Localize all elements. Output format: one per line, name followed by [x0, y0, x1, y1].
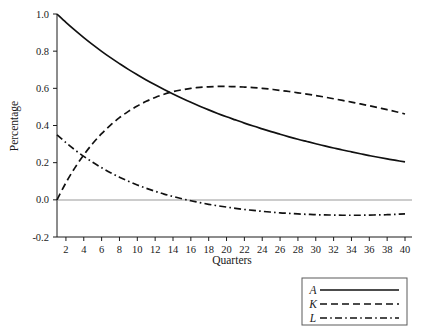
y-tick-label: 0.2 — [36, 157, 49, 168]
x-tick-label: 16 — [186, 244, 197, 255]
x-tick-label: 14 — [168, 244, 179, 255]
legend-label-a: A — [308, 284, 317, 296]
y-tick-label: -0.2 — [32, 232, 49, 243]
y-tick-label: 0.8 — [36, 46, 49, 57]
x-tick-label: 40 — [400, 244, 411, 255]
legend: AKL — [302, 278, 407, 325]
series-group — [57, 14, 405, 215]
y-tick-group: -0.20.00.20.40.60.81.0 — [32, 9, 57, 243]
chart-plot-area: -0.20.00.20.40.60.81.0 24681012141618202… — [0, 0, 429, 333]
y-axis-group: -0.20.00.20.40.60.81.0 — [32, 9, 57, 243]
x-tick-label: 4 — [81, 244, 87, 255]
x-tick-label: 10 — [132, 244, 143, 255]
x-tick-label: 28 — [293, 244, 304, 255]
x-tick-label: 38 — [382, 244, 393, 255]
y-tick-label: 0.6 — [36, 83, 49, 94]
x-tick-label: 36 — [364, 244, 375, 255]
x-axis-group: 246810121416182022242628303234363840 — [57, 237, 412, 255]
x-tick-label: 24 — [257, 244, 268, 255]
x-tick-label: 2 — [63, 244, 68, 255]
chart-figure: -0.20.00.20.40.60.81.0 24681012141618202… — [0, 0, 429, 333]
x-tick-label: 26 — [275, 244, 286, 255]
y-axis-title: Percentage — [8, 101, 21, 151]
x-axis-title: Quarters — [212, 254, 252, 266]
series-line-k — [57, 86, 405, 199]
x-tick-label: 30 — [311, 244, 322, 255]
y-tick-label: 0.0 — [36, 194, 49, 205]
y-tick-label: 0.4 — [36, 120, 50, 131]
x-tick-label: 6 — [99, 244, 104, 255]
x-tick-label: 8 — [117, 244, 122, 255]
legend-label-l: L — [309, 312, 316, 324]
x-tick-group: 246810121416182022242628303234363840 — [63, 237, 410, 255]
series-line-a — [57, 14, 405, 162]
x-tick-label: 12 — [150, 244, 161, 255]
y-tick-label: 1.0 — [36, 9, 49, 20]
series-line-l — [57, 135, 405, 215]
x-tick-label: 34 — [346, 244, 357, 255]
x-tick-label: 32 — [328, 244, 339, 255]
legend-label-k: K — [308, 298, 318, 310]
